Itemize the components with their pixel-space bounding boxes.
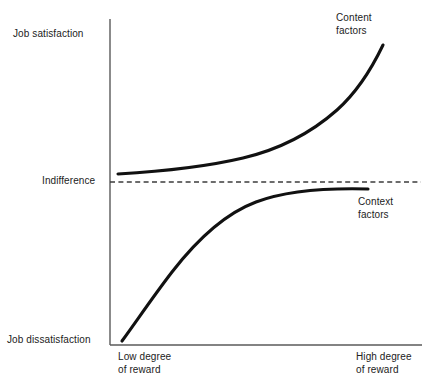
x-axis-label-left: Low degree of reward bbox=[118, 351, 171, 376]
chart-canvas bbox=[0, 0, 432, 389]
context-factors-curve bbox=[122, 189, 368, 341]
series-label-content-factors: Content factors bbox=[336, 12, 372, 37]
content-factors-curve bbox=[118, 45, 383, 174]
y-axis-label-bottom: Job dissatisfaction bbox=[7, 334, 91, 347]
y-axis-label-top: Job satisfaction bbox=[13, 28, 84, 41]
herzberg-two-factor-figure: Job satisfaction Indifference Job dissat… bbox=[0, 0, 432, 389]
y-axis-label-middle: Indifference bbox=[42, 175, 95, 188]
x-axis-label-right: High degree of reward bbox=[356, 351, 412, 376]
series-label-context-factors: Context factors bbox=[358, 196, 393, 221]
